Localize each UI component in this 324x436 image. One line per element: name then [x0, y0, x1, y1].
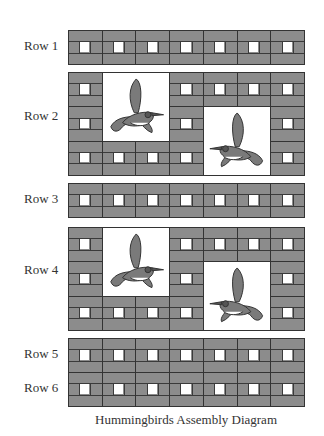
window-block [68, 261, 103, 296]
row-label-6: Row 6 [24, 380, 58, 396]
window-block [270, 141, 305, 176]
window-block [270, 106, 305, 141]
window-square [181, 153, 190, 162]
window-square [181, 119, 190, 128]
window-block [169, 227, 204, 262]
window-square [80, 239, 89, 248]
window-block [68, 183, 103, 218]
window-block [237, 227, 272, 262]
hummingbird-icon [204, 262, 270, 330]
window-square [283, 308, 292, 317]
window-block [102, 183, 137, 218]
window-square [80, 384, 89, 393]
window-square [249, 384, 258, 393]
quilt-row-5 [68, 338, 304, 373]
diagram-caption: Hummingbirds Assembly Diagram [0, 412, 324, 428]
window-block [237, 183, 272, 218]
window-block [270, 72, 305, 107]
window-block [169, 141, 204, 176]
window-square [215, 84, 224, 93]
window-square [114, 153, 123, 162]
window-square [80, 84, 89, 93]
window-block [135, 30, 170, 65]
window-block [270, 261, 305, 296]
window-block [169, 261, 204, 296]
window-block [237, 338, 272, 373]
window-square [181, 239, 190, 248]
quilt-row-3 [68, 183, 304, 218]
window-block [169, 72, 204, 107]
window-square [80, 119, 89, 128]
row-label-5: Row 5 [24, 346, 58, 362]
window-block [203, 30, 238, 65]
window-square [148, 384, 157, 393]
window-square [283, 84, 292, 93]
window-block [68, 72, 103, 107]
window-block [203, 227, 238, 262]
window-block [135, 183, 170, 218]
window-square [283, 42, 292, 51]
window-block [169, 106, 204, 141]
window-square [114, 384, 123, 393]
window-block [68, 30, 103, 65]
hummingbird-block [203, 261, 271, 331]
window-square [283, 239, 292, 248]
window-square [80, 42, 89, 51]
window-block [68, 227, 103, 262]
window-square [80, 153, 89, 162]
window-block [102, 338, 137, 373]
window-square [283, 153, 292, 162]
window-block [169, 183, 204, 218]
hummingbird-block [102, 72, 170, 142]
window-square [114, 42, 123, 51]
window-square [283, 350, 292, 359]
window-block [270, 372, 305, 407]
window-square [114, 350, 123, 359]
window-square [148, 195, 157, 204]
row-label-4: Row 4 [24, 262, 58, 278]
window-block [203, 183, 238, 218]
window-block [102, 372, 137, 407]
window-square [148, 42, 157, 51]
window-square [181, 274, 190, 283]
window-square [249, 350, 258, 359]
hummingbird-block [203, 106, 271, 176]
window-square [181, 384, 190, 393]
window-square [249, 42, 258, 51]
window-square [215, 350, 224, 359]
window-block [270, 227, 305, 262]
window-square [80, 308, 89, 317]
window-square [181, 42, 190, 51]
window-square [283, 119, 292, 128]
window-block [135, 296, 170, 331]
window-block [68, 338, 103, 373]
window-square [181, 84, 190, 93]
window-square [80, 274, 89, 283]
window-block [68, 372, 103, 407]
row-label-2: Row 2 [24, 108, 58, 124]
window-block [102, 30, 137, 65]
window-block [270, 338, 305, 373]
window-square [215, 239, 224, 248]
window-square [249, 195, 258, 204]
window-block [203, 338, 238, 373]
window-block [270, 30, 305, 65]
window-square [181, 308, 190, 317]
quilt-row-6 [68, 372, 304, 407]
window-square [283, 274, 292, 283]
window-square [148, 153, 157, 162]
row-label-1: Row 1 [24, 38, 58, 54]
window-square [215, 42, 224, 51]
quilt-row-2 [68, 72, 304, 175]
hummingbird-block [102, 227, 170, 297]
window-block [135, 372, 170, 407]
window-square [80, 195, 89, 204]
window-square [148, 308, 157, 317]
hummingbird-icon [204, 107, 270, 175]
window-block [237, 30, 272, 65]
window-square [283, 195, 292, 204]
window-block [270, 183, 305, 218]
window-square [249, 239, 258, 248]
window-block [169, 372, 204, 407]
hummingbird-icon [103, 228, 169, 296]
